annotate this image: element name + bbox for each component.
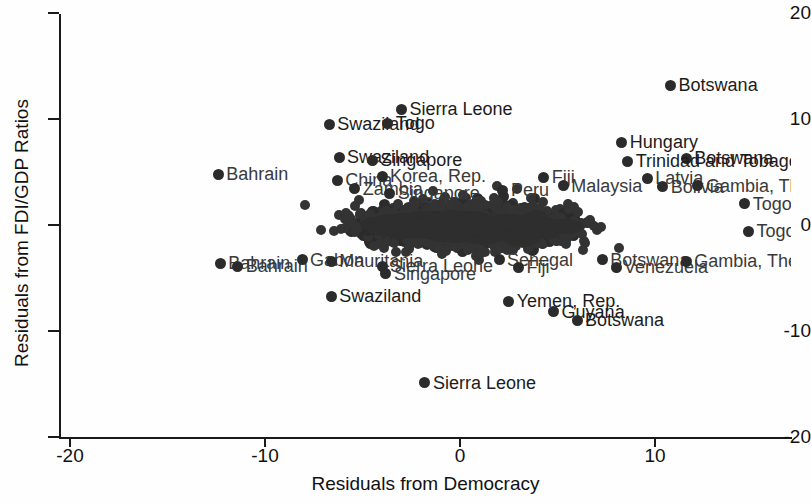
labeled-data-point (334, 152, 345, 163)
y-tick-label--10: -10 (767, 321, 811, 340)
x-axis-label: Residuals from Democracy (59, 473, 792, 495)
data-point (369, 241, 379, 251)
data-cluster (401, 216, 429, 232)
labeled-data-point (657, 181, 668, 192)
point-label: Sierra Leone (433, 374, 536, 392)
labeled-data-point (597, 254, 608, 265)
point-label: Botswana (679, 76, 758, 94)
x-tick-label-0: 0 (425, 446, 495, 465)
labeled-data-point (349, 183, 360, 194)
data-point (300, 200, 310, 210)
labeled-data-point (213, 169, 224, 180)
y-tick-0 (48, 224, 59, 226)
point-label: Singapore (394, 265, 476, 283)
point-label: Togo (396, 114, 435, 132)
y-tick--20 (48, 436, 59, 438)
data-point (578, 245, 588, 255)
labeled-data-point (548, 306, 559, 317)
labeled-data-point (367, 155, 378, 166)
labeled-data-point (743, 226, 754, 237)
labeled-data-point (497, 185, 508, 196)
y-tick-10 (48, 118, 59, 120)
labeled-data-point (380, 268, 391, 279)
labeled-data-point (616, 137, 627, 148)
x-tick-label-10: 10 (620, 446, 690, 465)
data-point (585, 215, 595, 225)
x-axis-spine (59, 437, 792, 439)
labeled-data-point (665, 80, 676, 91)
y-tick--10 (48, 330, 59, 332)
labeled-data-point (215, 258, 226, 269)
labeled-data-point (513, 262, 524, 273)
point-label: Peru (511, 181, 549, 199)
point-label: Swaziland (339, 287, 421, 305)
point-label: Gambia, The (706, 177, 791, 195)
labeled-data-point (326, 256, 337, 267)
labeled-data-point (326, 291, 337, 302)
labeled-data-point (611, 262, 622, 273)
y-tick-20 (48, 12, 59, 14)
data-cluster (521, 216, 552, 234)
labeled-data-point (232, 261, 243, 272)
y-tick-label-10: 10 (767, 109, 811, 128)
labeled-data-point (494, 254, 505, 265)
labeled-data-point (642, 173, 653, 184)
labeled-data-point (622, 156, 633, 167)
labeled-data-point (324, 119, 335, 130)
y-tick-label--20: -20 (767, 427, 811, 446)
data-cluster (479, 220, 507, 234)
labeled-data-point (332, 175, 343, 186)
labeled-data-point (558, 180, 569, 191)
data-point (596, 222, 606, 232)
data-point (316, 225, 326, 235)
labeled-data-point (419, 377, 430, 388)
point-label: Hungary (630, 133, 698, 151)
data-point (340, 223, 350, 233)
labeled-data-point (384, 188, 395, 199)
labeled-data-point (503, 296, 514, 307)
labeled-data-point (739, 198, 750, 209)
y-tick-label-20: 20 (767, 3, 811, 22)
point-label: Gambia, The (694, 252, 791, 270)
scatter-plot-figure: BotswanaSierra LeoneSwazilandTogoHungary… (0, 0, 811, 503)
point-label: Togo (753, 195, 791, 213)
y-axis-label: Residuals from FDI/GDP Ratios (11, 63, 33, 403)
labeled-data-point (681, 256, 692, 267)
point-label: Malaysia (571, 177, 642, 195)
point-label: Bahrain (226, 165, 288, 183)
plot-area: BotswanaSierra LeoneSwazilandTogoHungary… (61, 15, 791, 437)
x-tick-label--10: -10 (230, 446, 300, 465)
point-label: Singapore (398, 184, 480, 202)
point-label: Botswana (585, 311, 664, 329)
point-label: Fiji (527, 258, 550, 276)
x-tick-label--20: -20 (35, 446, 105, 465)
labeled-data-point (572, 315, 583, 326)
y-tick-label-0: 0 (767, 215, 811, 234)
labeled-data-point (297, 254, 308, 265)
data-point (573, 207, 583, 217)
